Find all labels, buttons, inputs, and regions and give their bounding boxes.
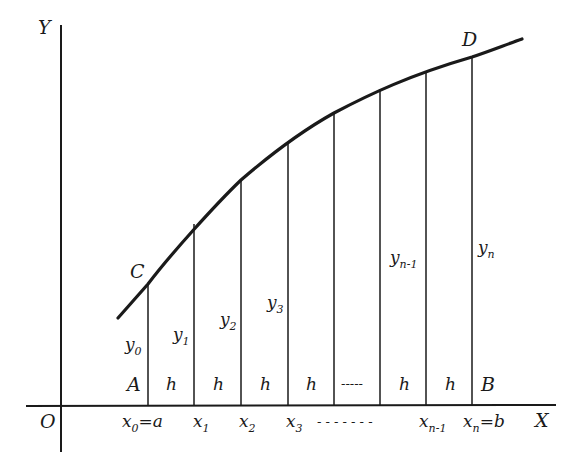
interval-h-5: h <box>399 374 410 394</box>
ordinate-label-y3: y3 <box>266 292 284 316</box>
abscissa-label-x1: x1 <box>193 411 210 435</box>
interval-h-2: h <box>213 374 224 394</box>
abscissa-label-xn-1: xn-1 <box>419 411 446 435</box>
abscissa-label-x2: x2 <box>239 411 256 435</box>
origin-label: O <box>40 410 56 432</box>
interval-h-3: h <box>260 374 271 394</box>
point-a-label: A <box>125 373 141 395</box>
point-c-label: C <box>130 260 145 282</box>
point-b-label: B <box>480 373 495 395</box>
abscissa-label-xn: xn=b <box>463 411 505 435</box>
y-axis-label: Y <box>38 16 53 38</box>
interval-ellipsis: ----- <box>341 376 363 391</box>
abscissa-ellipsis: - - - - - - - <box>317 414 373 429</box>
abscissa-label-x3: x3 <box>286 411 303 435</box>
ordinates-diagram: Y X O C D A B y0 y1 y2 y3 yn-1 yn h h h … <box>0 0 574 463</box>
x-axis-label: X <box>533 409 550 431</box>
ordinate-label-y2: y2 <box>219 309 237 333</box>
interval-h-1: h <box>166 374 177 394</box>
ordinate-label-yn: yn <box>477 237 495 261</box>
ordinate-label-y1: y1 <box>172 324 190 348</box>
ordinate-label-yn-1: yn-1 <box>389 247 417 271</box>
interval-labels: h h h h ----- h h <box>166 374 456 394</box>
point-d-label: D <box>461 28 477 50</box>
interval-h-6: h <box>445 374 456 394</box>
curve-cd <box>118 39 522 318</box>
ordinate-lines <box>148 57 472 406</box>
x-axis <box>26 405 556 406</box>
ordinate-label-y0: y0 <box>124 334 142 358</box>
interval-h-4: h <box>306 374 317 394</box>
abscissa-label-x0: x0=a <box>122 411 163 435</box>
